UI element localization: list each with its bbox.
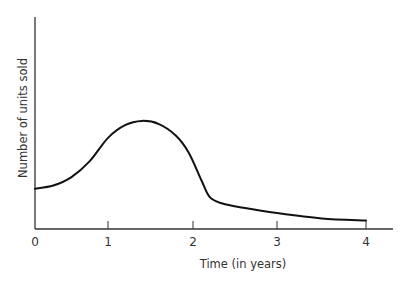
x-ticks <box>108 221 366 229</box>
series-line-units-sold <box>35 121 366 221</box>
chart: 01234 Time (in years) Number of units so… <box>0 0 406 282</box>
x-tick-label: 1 <box>104 235 112 249</box>
x-tick-label: 0 <box>31 235 39 249</box>
y-axis-title: Number of units sold <box>16 58 30 178</box>
x-tick-label: 3 <box>273 235 281 249</box>
x-tick-labels: 01234 <box>31 235 370 249</box>
x-tick-label: 2 <box>189 235 197 249</box>
x-axis-title: Time (in years) <box>199 257 287 271</box>
x-tick-label: 4 <box>362 235 370 249</box>
